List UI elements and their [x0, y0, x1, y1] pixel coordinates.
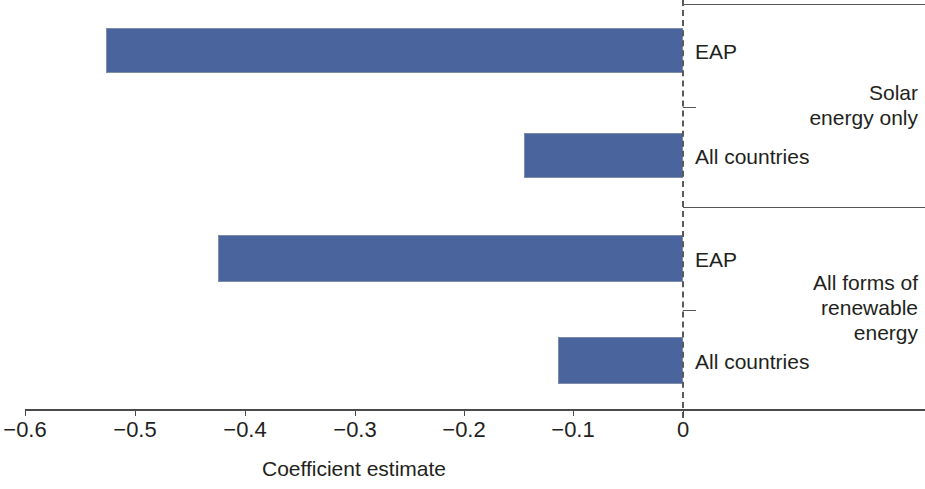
category-label-eap-solar: EAP	[695, 41, 737, 62]
group2-bracket	[683, 310, 696, 311]
bar-eap-solar[interactable]	[106, 28, 683, 73]
group-label-all-renewable-energy: All forms of renewable energy	[718, 270, 918, 345]
x-axis-tick-6	[683, 409, 684, 416]
category-label-all-countries-solar: All countries	[695, 146, 809, 167]
x-axis-tick-label-2: −0.4	[223, 419, 266, 441]
x-axis-tick-0	[25, 409, 26, 416]
x-axis-tick-3	[355, 409, 356, 416]
group-rule-top	[683, 4, 925, 5]
x-axis-tick-label-6: 0	[677, 419, 689, 441]
group-label-solar-energy-only: Solar energy only	[718, 80, 918, 130]
x-axis-tick-2	[245, 409, 246, 416]
x-axis-line	[25, 409, 925, 411]
bar-all-countries-solar[interactable]	[524, 133, 683, 178]
group-rule-middle	[683, 207, 925, 208]
group1-bracket	[683, 107, 696, 108]
category-label-all-countries-renewable: All countries	[695, 351, 809, 372]
bar-chart: EAP All countries EAP All countries Sola…	[0, 0, 925, 489]
zero-reference-line	[682, 0, 684, 418]
x-axis-tick-label-5: −0.1	[551, 419, 594, 441]
x-axis-title: Coefficient estimate	[262, 458, 446, 479]
bar-all-countries-renewable[interactable]	[558, 337, 683, 384]
x-axis-tick-label-0: −0.6	[3, 419, 46, 441]
x-axis-tick-label-4: −0.2	[442, 419, 485, 441]
x-axis-tick-5	[573, 409, 574, 416]
x-axis-tick-4	[464, 409, 465, 416]
bar-eap-renewable[interactable]	[218, 235, 683, 282]
x-axis-tick-label-3: −0.3	[333, 419, 376, 441]
x-axis-tick-1	[135, 409, 136, 416]
category-label-eap-renewable: EAP	[695, 249, 737, 270]
plot-area: EAP All countries EAP All countries Sola…	[0, 0, 925, 409]
x-axis-tick-label-1: −0.5	[113, 419, 156, 441]
